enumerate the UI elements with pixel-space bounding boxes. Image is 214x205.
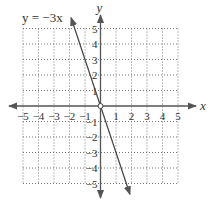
y-tick-label: −4: [86, 162, 98, 174]
y-tick-label: −1: [86, 116, 98, 128]
y-tick-label: 5: [92, 23, 98, 35]
x-tick-label: −2: [64, 110, 76, 122]
y-tick-label: 4: [92, 38, 98, 50]
x-tick-label: −3: [48, 110, 60, 122]
coordinate-plane: xy −5−4−3−2−11234554321−1−2−3−4−5 y = −3…: [0, 0, 214, 205]
y-tick-label: −5: [86, 178, 98, 190]
y-tick-label: −3: [86, 147, 98, 159]
y-tick-label: −2: [86, 131, 98, 143]
equation-label: y = −3x: [22, 10, 63, 25]
y-tick-label: 2: [92, 69, 98, 81]
x-tick-label: 3: [144, 110, 150, 122]
x-tick-label: −4: [33, 110, 45, 122]
x-tick-label: −5: [17, 110, 29, 122]
x-tick-label: 5: [175, 110, 181, 122]
x-tick-label: 1: [113, 110, 119, 122]
x-tick-label: 2: [129, 110, 135, 122]
origin-point: [98, 104, 103, 109]
x-tick-label: 4: [160, 110, 166, 122]
y-axis-label: y: [95, 0, 103, 15]
y-tick-label: 3: [92, 54, 98, 66]
x-axis-label: x: [199, 98, 206, 113]
